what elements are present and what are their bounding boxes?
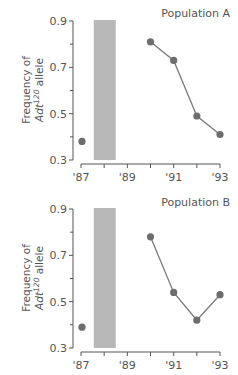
- y-tick-label: 0.9: [50, 15, 68, 28]
- y-tick-label: 0.3: [50, 342, 68, 355]
- data-point: [147, 233, 154, 240]
- panel-title: Population B: [161, 196, 230, 209]
- y-tick-label: 0.5: [50, 296, 68, 309]
- y-axis-label: Frequency ofAdt120 allele: [20, 244, 45, 312]
- y-axis-label: Frequency ofAdt120 allele: [20, 56, 45, 124]
- series-line: [151, 237, 221, 320]
- shaded-period-bar: [94, 208, 116, 348]
- x-tick-label: '91: [165, 359, 182, 372]
- data-point: [170, 289, 177, 296]
- y-tick-label: 0.9: [50, 203, 68, 216]
- y-tick-label: 0.7: [50, 249, 68, 262]
- chart-panel-population-b: 0.30.50.70.9'87'89'91'93Population BFreq…: [20, 196, 230, 372]
- x-tick-label: '87: [72, 359, 89, 372]
- x-tick-label: '93: [211, 359, 228, 372]
- chart-panel-population-a: 0.30.50.70.9'87'89'91'93Population AFreq…: [20, 7, 230, 184]
- series-line: [151, 42, 221, 135]
- data-point: [216, 131, 223, 138]
- data-point-1987: [78, 138, 85, 145]
- x-tick-label: '87: [72, 171, 89, 184]
- x-tick-label: '89: [119, 359, 136, 372]
- data-point: [216, 291, 223, 298]
- y-tick-label: 0.7: [50, 61, 68, 74]
- y-tick-label: 0.5: [50, 108, 68, 121]
- x-tick-label: '91: [165, 171, 182, 184]
- data-point-1987: [78, 324, 85, 331]
- data-point: [193, 317, 200, 324]
- panel-title: Population A: [161, 7, 230, 20]
- y-tick-label: 0.3: [50, 154, 68, 167]
- allele-frequency-figure: 0.30.50.70.9'87'89'91'93Population AFreq…: [0, 0, 238, 375]
- x-tick-label: '89: [119, 171, 136, 184]
- data-point: [170, 57, 177, 64]
- data-point: [147, 38, 154, 45]
- data-point: [193, 112, 200, 119]
- x-tick-label: '93: [211, 171, 228, 184]
- shaded-period-bar: [94, 20, 116, 160]
